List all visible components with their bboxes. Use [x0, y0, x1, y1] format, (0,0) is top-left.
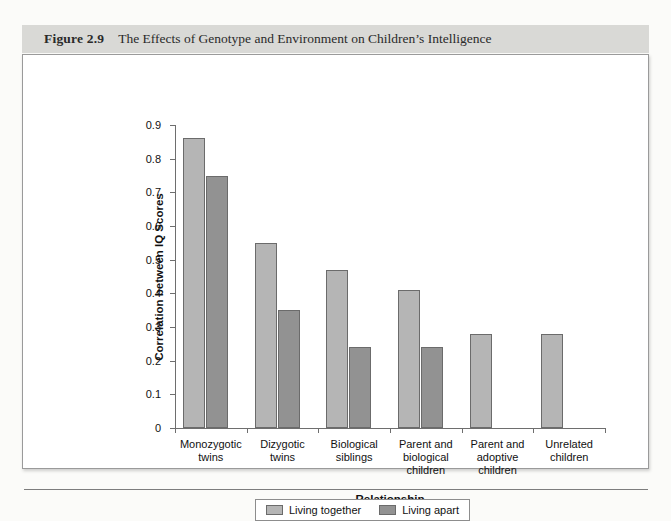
x-axis-category-line: Dizygotic [245, 438, 321, 451]
x-axis-category-line: Biological [316, 438, 392, 451]
figure-number: Figure 2.9 [44, 31, 104, 46]
x-axis-category-line: children [531, 451, 607, 464]
x-axis-category-label: Monozygotictwins [173, 438, 249, 464]
x-axis-category-line: adoptive [460, 451, 536, 464]
figure-title: The Effects of Genotype and Environment … [118, 31, 491, 46]
x-axis-category-line: twins [173, 451, 249, 464]
legend-swatch [266, 505, 283, 515]
bar-group [247, 125, 319, 428]
bar-group [318, 125, 390, 428]
legend-swatch [379, 505, 396, 515]
x-axis-category-line: children [388, 464, 464, 477]
legend-label: Living together [289, 504, 361, 516]
legend-item[interactable]: Living apart [379, 504, 459, 516]
chart-plot-area: 00.10.20.30.40.50.60.70.80.9 Correlation… [175, 125, 605, 428]
figure-frame: 00.10.20.30.40.50.60.70.80.9 Correlation… [22, 54, 649, 469]
bar-living-together[interactable] [255, 243, 277, 428]
bar-living-apart[interactable] [206, 176, 228, 429]
bar-living-apart[interactable] [421, 347, 443, 428]
bar-living-apart[interactable] [278, 310, 300, 428]
x-axis-tick [605, 428, 606, 433]
legend-label: Living apart [402, 504, 459, 516]
chart-legend: Living togetherLiving apart [255, 499, 470, 521]
x-axis-category-label: Parent andbiologicalchildren [388, 438, 464, 477]
x-axis-tick [462, 428, 463, 433]
bar-living-apart[interactable] [349, 347, 371, 428]
bar-group [533, 125, 605, 428]
bar-group [462, 125, 534, 428]
x-axis-tick [390, 428, 391, 433]
x-axis-category-label: Unrelatedchildren [531, 438, 607, 464]
y-axis-title: Correlation between IQ Scores [153, 193, 165, 360]
x-axis-tick [318, 428, 319, 433]
bar-living-together[interactable] [398, 290, 420, 428]
bar-living-together[interactable] [470, 334, 492, 428]
figure-caption-text: Figure 2.9The Effects of Genotype and En… [22, 31, 491, 47]
x-axis-category-line: twins [245, 451, 321, 464]
x-axis-tick [175, 428, 176, 433]
bar-living-together[interactable] [183, 138, 205, 428]
y-axis-tick-label: 0.9 [146, 119, 161, 131]
bars-layer [175, 125, 605, 428]
x-axis-tick [247, 428, 248, 433]
legend-item[interactable]: Living together [266, 504, 361, 516]
x-axis-category-line: biological [388, 451, 464, 464]
x-axis-category-line: children [460, 464, 536, 477]
y-axis-tick-label: 0.8 [146, 153, 161, 165]
x-axis-category-line: siblings [316, 451, 392, 464]
bar-group [390, 125, 462, 428]
y-axis-tick-label: 0.1 [146, 388, 161, 400]
bar-living-together[interactable] [541, 334, 563, 428]
bar-living-together[interactable] [326, 270, 348, 428]
figure-caption-band: Figure 2.9The Effects of Genotype and En… [22, 25, 649, 53]
x-axis-category-line: Parent and [388, 438, 464, 451]
x-axis-category-label: Parent andadoptivechildren [460, 438, 536, 477]
x-axis-category-line: Parent and [460, 438, 536, 451]
x-axis-category-line: Unrelated [531, 438, 607, 451]
x-axis-category-label: Biologicalsiblings [316, 438, 392, 464]
x-axis-category-label: Dizygotictwins [245, 438, 321, 464]
x-axis-category-line: Monozygotic [173, 438, 249, 451]
x-axis-tick [533, 428, 534, 433]
y-axis-tick-label: 0 [155, 422, 161, 434]
page-bottom-rule [24, 489, 648, 490]
bar-group [175, 125, 247, 428]
